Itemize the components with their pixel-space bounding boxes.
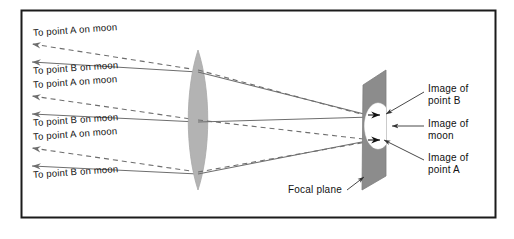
label-image-point-a-line2: point A [428,164,469,176]
label-image-point-b: Image of point B [428,83,469,106]
label-image-point-a-line1: Image of [428,152,469,164]
label-focal-plane: Focal plane [288,184,342,195]
label-image-moon: Image of moon [428,118,469,141]
label-image-moon-line1: Image of [428,118,469,130]
label-image-point-b-line2: point B [428,95,469,107]
label-image-point-b-line1: Image of [428,83,469,95]
label-image-moon-line2: moon [428,130,469,142]
label-image-point-a: Image of point A [428,152,469,175]
optics-diagram-figure: To point A on moon To point B on moon To… [0,0,514,239]
